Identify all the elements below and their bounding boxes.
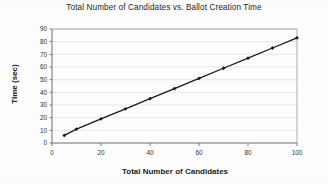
svg-text:70: 70 [40, 51, 48, 58]
chart-figure: Total Number of Candidates vs. Ballot Cr… [0, 0, 328, 184]
plot-area: 0102030405060708090 020406080100 [0, 0, 328, 184]
svg-text:90: 90 [40, 25, 48, 32]
y-axis-tick-labels: 0102030405060708090 [40, 25, 48, 146]
svg-text:20: 20 [40, 114, 48, 121]
svg-text:80: 80 [244, 149, 252, 156]
svg-text:60: 60 [40, 63, 48, 70]
svg-text:80: 80 [40, 38, 48, 45]
gridlines [52, 29, 297, 130]
svg-text:40: 40 [146, 149, 154, 156]
svg-text:40: 40 [40, 89, 48, 96]
svg-text:10: 10 [40, 127, 48, 134]
svg-text:0: 0 [50, 149, 54, 156]
svg-text:0: 0 [43, 139, 47, 146]
svg-text:60: 60 [195, 149, 203, 156]
svg-text:30: 30 [40, 101, 48, 108]
x-axis-tick-labels: 020406080100 [50, 149, 303, 156]
svg-text:100: 100 [292, 149, 303, 156]
svg-text:20: 20 [97, 149, 105, 156]
data-series-line [64, 38, 297, 136]
svg-text:50: 50 [40, 76, 48, 83]
